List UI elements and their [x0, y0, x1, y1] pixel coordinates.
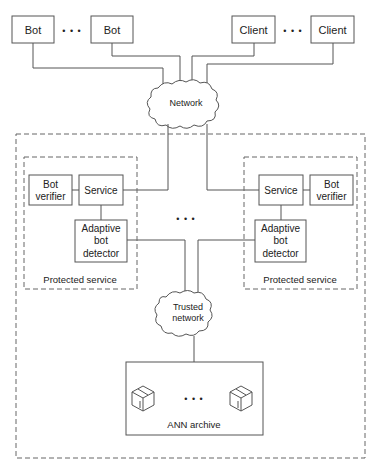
network-service-wires [123, 124, 259, 190]
protected-service-label: Protected service [263, 274, 336, 285]
detector-label: bot [274, 235, 288, 246]
bots-ellipsis: • • • [62, 26, 81, 36]
trusted-network-cloud-icon: Trusted network [155, 291, 212, 337]
detector-label: bot [94, 235, 108, 246]
bot-verifier-label: verifier [316, 191, 347, 202]
bot-label: Bot [25, 24, 42, 36]
top-wires [33, 43, 333, 84]
network-cloud-icon: Network [147, 80, 219, 129]
detector-label: Adaptive [82, 223, 121, 234]
client-label: Client [318, 24, 346, 36]
protected-service-left: Bot verifier Service Adaptive bot detect… [24, 157, 137, 289]
ann-archive: • • • ANN archive [126, 362, 263, 435]
protected-service-label: Protected service [43, 274, 116, 285]
bot-box-1: Bot [12, 16, 54, 43]
client-box-1: Client [232, 16, 275, 43]
service-label: Service [264, 185, 298, 196]
service-label: Service [84, 185, 118, 196]
client-box-2: Client [311, 16, 354, 43]
bot-label: Bot [104, 24, 121, 36]
detector-label: detector [83, 248, 120, 259]
bot-verifier-label: Bot [324, 179, 339, 190]
archive-ellipsis: • • • [184, 394, 203, 404]
trusted-network-label: network [172, 313, 204, 323]
network-label: Network [169, 98, 203, 108]
bot-verifier-label: Bot [43, 179, 58, 190]
detector-label: detector [262, 248, 299, 259]
bot-detection-architecture-diagram: Bot • • • Bot Client • • • Client Networ… [0, 0, 378, 469]
detector-label: Adaptive [261, 223, 300, 234]
bot-verifier-label: verifier [35, 191, 66, 202]
trusted-network-label: Trusted [173, 302, 203, 312]
client-label: Client [239, 24, 267, 36]
protected-service-right: Service Bot verifier Adaptive bot detect… [244, 157, 357, 289]
ann-archive-label: ANN archive [167, 419, 220, 430]
services-ellipsis: • • • [176, 214, 195, 224]
clients-ellipsis: • • • [283, 26, 302, 36]
detector-trusted-wires [127, 240, 255, 292]
bot-box-2: Bot [91, 16, 133, 43]
